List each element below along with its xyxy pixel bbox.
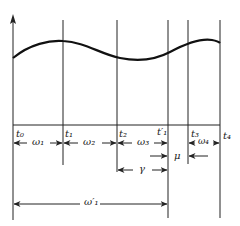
label-omega1: ω₁	[31, 137, 45, 147]
label-t2: t₂	[119, 129, 127, 139]
label-t0: t₀	[16, 129, 24, 139]
time-lines	[63, 20, 220, 218]
label-t1-prime: t′₁	[157, 127, 167, 137]
label-omega2: ω₂	[82, 137, 96, 147]
label-gamma: γ	[138, 164, 146, 174]
label-omega3: ω₃	[136, 137, 150, 147]
label-omega1-prime: ω′₁	[83, 197, 99, 207]
label-t1: t₁	[65, 129, 73, 139]
label-omega4: ω₄	[197, 137, 210, 146]
label-mu: μ	[173, 151, 182, 161]
y-axis	[10, 14, 16, 220]
timing-diagram	[0, 0, 240, 226]
label-t4: t₄	[223, 131, 231, 141]
